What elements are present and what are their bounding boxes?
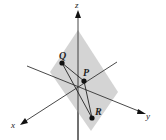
point-Q bbox=[59, 60, 64, 65]
x-axis-arrow-icon bbox=[20, 118, 28, 125]
point-P-label: P bbox=[83, 67, 90, 78]
y-axis-label: y bbox=[145, 111, 150, 121]
x-axis-label: x bbox=[10, 120, 15, 130]
point-P bbox=[81, 78, 86, 83]
z-axis-label: z bbox=[74, 0, 79, 10]
diagram-canvas: z x y Q P R bbox=[0, 0, 166, 140]
y-axis-arrow-icon bbox=[137, 109, 146, 114]
point-R bbox=[89, 115, 94, 120]
point-Q-label: Q bbox=[59, 50, 66, 61]
point-R-label: R bbox=[94, 106, 102, 117]
z-axis-arrow-icon bbox=[75, 10, 81, 18]
